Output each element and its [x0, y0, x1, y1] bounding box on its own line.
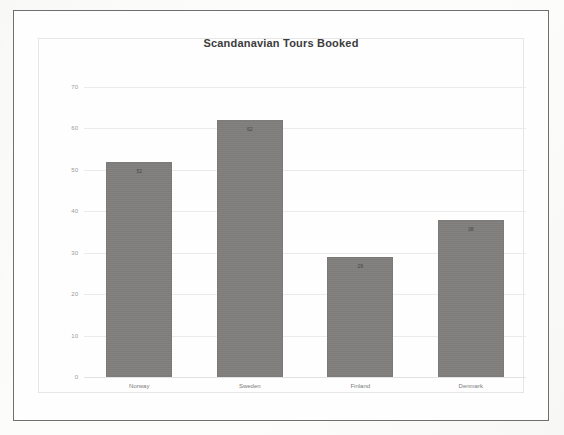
- y-axis-tick-0: 0: [75, 374, 78, 380]
- gridline-0: [84, 377, 526, 378]
- bar-value-label-norway: 52: [106, 168, 172, 174]
- bar-denmark[interactable]: 38: [438, 220, 504, 377]
- category-label-norway: Norway: [84, 383, 195, 389]
- y-axis-tick-50: 50: [71, 167, 78, 173]
- y-axis-tick-30: 30: [71, 250, 78, 256]
- bar-value-label-sweden: 62: [217, 126, 283, 132]
- y-axis-tick-20: 20: [71, 291, 78, 297]
- bar-sweden[interactable]: 62: [217, 120, 283, 377]
- chart-title: Scandanavian Tours Booked: [14, 37, 548, 49]
- category-label-denmark: Denmark: [416, 383, 527, 389]
- bar-value-label-denmark: 38: [438, 226, 504, 232]
- y-axis-tick-10: 10: [71, 333, 78, 339]
- y-axis-tick-70: 70: [71, 84, 78, 90]
- y-axis-tick-60: 60: [71, 125, 78, 131]
- bar-finland[interactable]: 29: [327, 257, 393, 377]
- plot-area: 01020304050607052Norway62Sweden29Finland…: [84, 87, 526, 377]
- category-label-sweden: Sweden: [195, 383, 306, 389]
- gridline-60: [84, 128, 526, 129]
- category-label-finland: Finland: [305, 383, 416, 389]
- scanned-page: Scandanavian Tours Booked 01020304050607…: [0, 0, 564, 435]
- bar-norway[interactable]: 52: [106, 162, 172, 377]
- chart-outer-frame: Scandanavian Tours Booked 01020304050607…: [13, 10, 549, 421]
- y-axis-tick-40: 40: [71, 208, 78, 214]
- gridline-70: [84, 87, 526, 88]
- bar-value-label-finland: 29: [327, 263, 393, 269]
